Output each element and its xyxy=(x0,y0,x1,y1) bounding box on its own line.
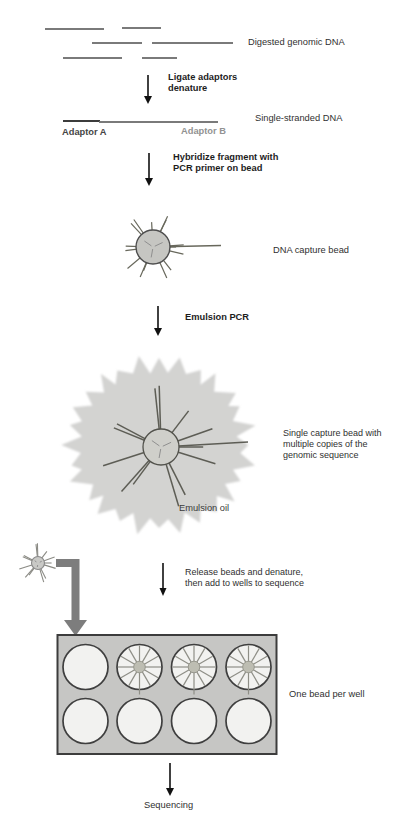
down-arrow-icon xyxy=(166,763,174,796)
down-arrow-icon xyxy=(160,563,167,596)
down-arrow-icon xyxy=(145,153,153,186)
emulsion-pcr-label: Emulsion PCR xyxy=(185,312,249,323)
elbow-arrow-icon xyxy=(56,559,87,636)
ligate-adaptors-label: Ligate adaptors denature xyxy=(168,72,237,94)
digested-dna-label: Digested genomic DNA xyxy=(248,37,345,48)
digested-dna-lines xyxy=(45,28,233,58)
adaptor-b-label: Adaptor B xyxy=(181,126,226,137)
well-plate xyxy=(58,635,277,754)
adaptor-a-label: Adaptor A xyxy=(62,127,107,138)
dna-capture-bead-icon xyxy=(125,216,221,278)
one-bead-per-well-label: One bead per well xyxy=(289,689,364,700)
emulsion-oil-label: Emulsion oil xyxy=(179,503,229,514)
single-capture-bead-label: Single capture bead with multiple copies… xyxy=(283,428,382,461)
released-bead-icon xyxy=(19,543,55,582)
release-beads-label: Release beads and denature, then add to … xyxy=(185,567,304,589)
hybridize-label: Hybridize fragment with PCR primer on be… xyxy=(173,152,278,174)
workflow-diagram: Digested genomic DNA Ligate adaptors den… xyxy=(0,0,394,826)
down-arrow-icon xyxy=(154,306,162,336)
sequencing-label: Sequencing xyxy=(144,800,193,811)
single-stranded-dna-label: Single-stranded DNA xyxy=(255,113,342,124)
single-stranded-dna-line xyxy=(63,121,218,122)
dna-capture-bead-label: DNA capture bead xyxy=(273,245,349,256)
down-arrow-icon xyxy=(144,75,152,104)
